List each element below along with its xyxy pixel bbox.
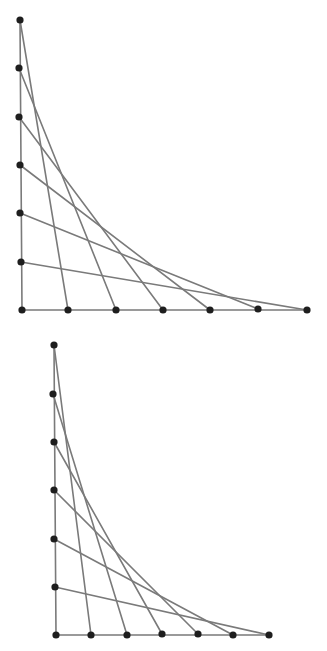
node-dot [50,341,57,348]
node-dot [16,161,23,168]
envelope-line [55,587,269,635]
node-dot [51,583,58,590]
node-dot [16,209,23,216]
envelope-line [53,394,127,635]
node-dot [16,16,23,23]
node-dot [50,535,57,542]
envelope-line [54,490,198,634]
node-dot [194,630,201,637]
node-dot [254,305,261,312]
node-dot [229,631,236,638]
string-art-bottom [49,341,272,638]
node-dot [159,306,166,313]
node-dot [15,64,22,71]
string-art-diagram [0,0,327,651]
string-art-top [15,16,310,313]
node-dot [50,486,57,493]
envelope-line [19,68,116,310]
node-dot [64,306,71,313]
node-dot [50,438,57,445]
node-dot [265,631,272,638]
node-dot [52,631,59,638]
node-dot [206,306,213,313]
node-dot [87,631,94,638]
node-dot [158,630,165,637]
node-dot [17,258,24,265]
node-dot [15,113,22,120]
node-dot [303,306,310,313]
node-dot [123,631,130,638]
diagram-canvas [0,0,327,651]
envelope-line [19,117,163,310]
node-dot [49,390,56,397]
node-dot [112,306,119,313]
node-dot [18,306,25,313]
envelope-line [20,213,258,309]
envelope-line [54,442,162,634]
